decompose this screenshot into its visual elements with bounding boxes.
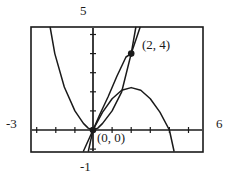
viewport-label-ymin: -1 [80,160,91,173]
annotation-label-0-0: (0, 0) [97,131,125,144]
point-marker-0-0 [90,127,97,134]
viewport-label-ymax: 5 [80,4,87,17]
viewport-label-xmin: -3 [6,117,17,130]
point-marker-2-4 [128,50,135,57]
viewport-label-xmax: 6 [216,117,223,130]
graph-canvas [0,0,234,187]
annotation-label-2-4: (2, 4) [142,38,170,51]
